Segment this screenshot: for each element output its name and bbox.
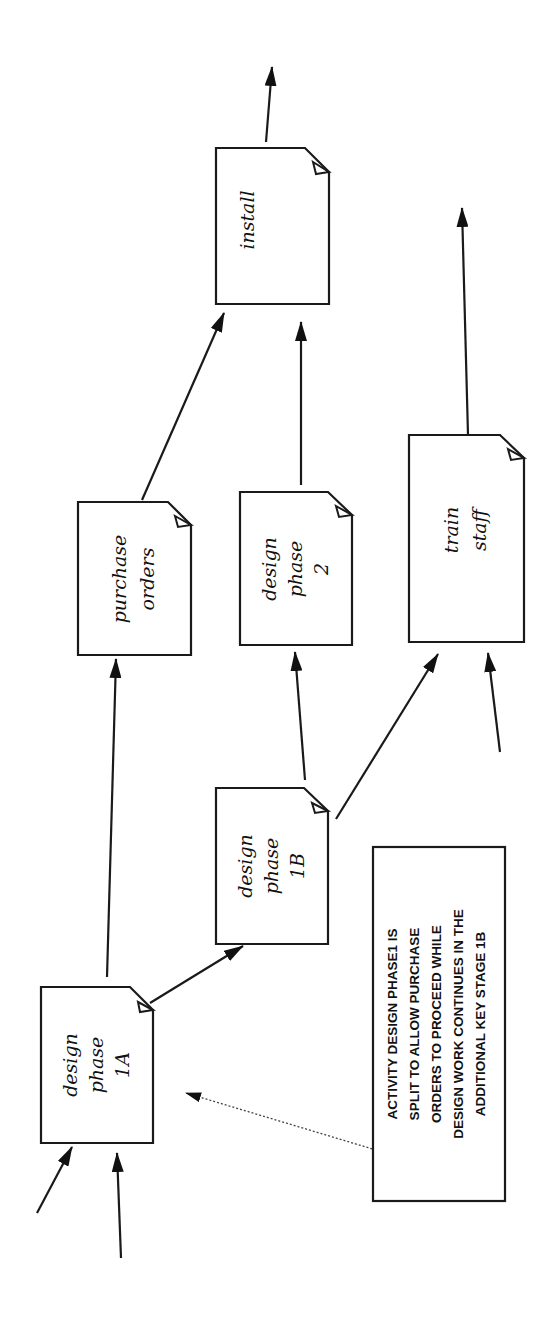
annotation-note: ACTIVITY DESIGN PHASE1 IS SPLIT TO ALLOW… <box>373 847 505 1201</box>
node-label-line: train <box>440 507 462 553</box>
edge-1b-to-train-staff <box>336 654 438 819</box>
edge-purchase-orders-to-install <box>142 313 224 500</box>
node-label-line: design <box>258 537 280 601</box>
node-label-line: orders <box>136 547 158 610</box>
node-train-staff: train staff <box>409 435 524 642</box>
edge-train-staff-out <box>462 208 468 435</box>
node-label-line: 1A <box>111 1052 133 1078</box>
node-label-line: phase <box>284 541 306 598</box>
node-label-line: install <box>236 190 258 249</box>
edge-install-out <box>266 67 272 142</box>
node-label-line: staff <box>468 505 490 551</box>
node-label-line: phase <box>260 838 282 895</box>
edge-1b-to-phase-2 <box>295 652 305 780</box>
node-label-line: design <box>59 1033 81 1097</box>
node-install: install <box>216 148 329 304</box>
node-label-line: 1B <box>286 853 308 879</box>
note-line: ORDERS TO PROCEED WHILE <box>429 925 444 1123</box>
node-design-phase-1a: design phase 1A <box>41 987 153 1143</box>
edge-1a-to-1b <box>150 946 243 1003</box>
note-line: DESIGN WORK CONTINUES IN THE <box>451 909 466 1139</box>
edge-1a-to-purchase-orders <box>107 659 116 977</box>
node-label-line: purchase <box>108 535 130 624</box>
note-pointer-edge <box>186 1093 376 1150</box>
edge-external-to-train-staff <box>488 653 500 752</box>
node-design-phase-1b: design phase 1B <box>216 788 328 944</box>
node-label-line: 2 <box>310 563 332 576</box>
node-design-phase-2: design phase 2 <box>240 492 352 645</box>
node-label-line: design <box>234 834 256 898</box>
note-line: SPLIT TO ALLOW PURCHASE <box>407 928 422 1121</box>
node-purchase-orders: purchase orders <box>78 502 191 655</box>
edge-external-to-1a-b <box>117 1153 121 1258</box>
edge-external-to-1a-a <box>37 1147 72 1213</box>
activity-network-diagram: design phase 1A design phase 1B purchase… <box>0 0 555 1325</box>
note-line: ACTIVITY DESIGN PHASE1 IS <box>385 928 400 1119</box>
note-line: ADDITIONAL KEY STAGE 1B <box>473 931 488 1116</box>
node-label-line: phase <box>85 1037 107 1094</box>
